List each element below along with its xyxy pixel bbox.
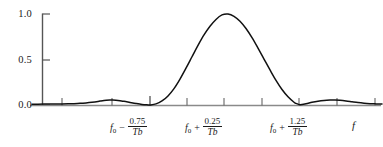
symbol-Tb: Tb <box>291 127 303 137</box>
expression-f0-minus-0p75-over-Tb: f0 − 0.75 Tb <box>110 117 147 138</box>
symbol-f0: f0 <box>185 123 191 133</box>
expression-f0-plus-1p25-over-Tb: f0 + 1.25 Tb <box>270 117 307 138</box>
spectrum-figure: 1.0 0.5 0.0 f0 − 0.75 Tb f0 + 0.25 Tb f0 <box>0 0 383 147</box>
y-tick-label-0p5: 0.5 <box>6 55 32 66</box>
fraction-1p25-over-Tb: 1.25 Tb <box>288 117 307 138</box>
operator-plus: + <box>278 123 286 133</box>
operator-minus: − <box>118 123 126 133</box>
x-tick-label-plus-0p25: f0 + 0.25 Tb <box>185 117 222 138</box>
symbol-f0: f0 <box>270 123 276 133</box>
symbol-f0: f0 <box>110 123 116 133</box>
y-tick-label-0p0: 0.0 <box>6 100 32 111</box>
fraction-0p75-over-Tb: 0.75 Tb <box>128 117 147 138</box>
symbol-Tb: Tb <box>206 127 218 137</box>
expression-f0-plus-0p25-over-Tb: f0 + 0.25 Tb <box>185 117 222 138</box>
x-tick-label-minus-0p75: f0 − 0.75 Tb <box>110 117 147 138</box>
symbol-Tb: Tb <box>131 127 143 137</box>
y-tick-label-1p0: 1.0 <box>6 9 32 20</box>
spectrum-curve <box>32 14 382 105</box>
x-tick-label-plus-1p25: f0 + 1.25 Tb <box>270 117 307 138</box>
fraction-0p25-over-Tb: 0.25 Tb <box>203 117 222 138</box>
x-axis-label: f <box>352 119 355 131</box>
operator-plus: + <box>193 123 201 133</box>
